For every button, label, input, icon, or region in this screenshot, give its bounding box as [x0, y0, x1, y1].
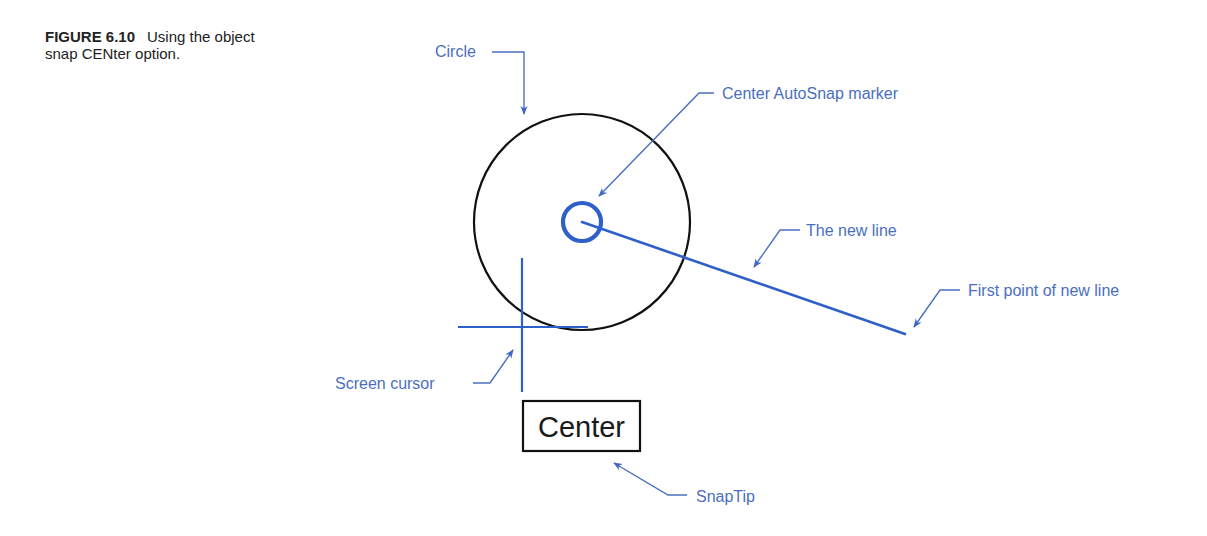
leader-arrow-icon: [614, 463, 687, 495]
callout-circle: Circle: [435, 43, 524, 114]
callout-label-snaptip: SnapTip: [696, 488, 755, 505]
callout-label-the-new-line: The new line: [806, 222, 897, 239]
callout-screen-cursor: Screen cursor: [335, 350, 513, 392]
callout-label-center-autosnap-marker: Center AutoSnap marker: [722, 85, 899, 102]
callout-label-first-point: First point of new line: [968, 282, 1119, 299]
leader-arrow-icon: [754, 230, 800, 267]
snaptip-text: Center: [538, 411, 625, 443]
callout-label-screen-cursor: Screen cursor: [335, 375, 435, 392]
callout-snaptip: SnapTip: [614, 463, 755, 505]
snaptip-box: Center: [523, 401, 640, 451]
callout-first-point: First point of new line: [914, 282, 1119, 327]
callout-the-new-line: The new line: [754, 222, 897, 267]
callout-label-circle: Circle: [435, 43, 476, 60]
leader-arrow-icon: [914, 290, 960, 327]
callout-center-autosnap-marker: Center AutoSnap marker: [599, 85, 899, 196]
leader-arrow-icon: [473, 350, 513, 383]
leader-arrow-icon: [492, 52, 524, 114]
diagram-canvas: Center Circle Center AutoSnap marker The…: [0, 0, 1207, 536]
crosshair-cursor-icon: [458, 258, 588, 392]
